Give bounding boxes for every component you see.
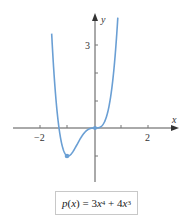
formula-op: +	[108, 197, 114, 209]
formula-arg: x	[71, 197, 76, 209]
y-axis-arrow-icon	[92, 13, 98, 21]
origin-point	[93, 126, 97, 130]
formula-function-name: p	[62, 197, 68, 209]
x-axis-label: x	[171, 114, 177, 125]
local-minimum-point	[65, 154, 70, 159]
y-axis-label: y	[100, 14, 106, 25]
x-tick-label-2: 2	[145, 132, 150, 143]
function-plot: −2 2 3 x y	[0, 0, 188, 223]
y-tick-label-3: 3	[85, 40, 90, 51]
function-curve	[52, 18, 118, 156]
x-tick-label-neg2: −2	[34, 132, 45, 143]
formula-label: p(x) = 3x4 + 4x3	[55, 191, 138, 215]
x-axis-arrow-icon	[171, 125, 179, 131]
